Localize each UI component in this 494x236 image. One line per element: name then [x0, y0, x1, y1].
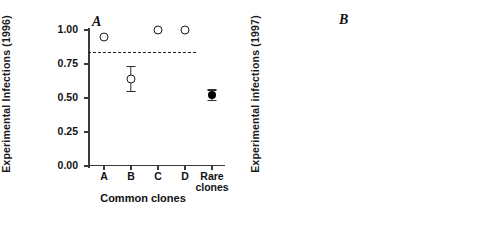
data-point-marker [154, 26, 163, 35]
y-axis-tick: 1.00 [84, 29, 88, 31]
y-axis-label-b: Experimental infections (1997) [249, 0, 267, 212]
data-point-marker [127, 74, 136, 83]
y-axis-line-a [88, 28, 90, 168]
y-axis-tick-label: 0.00 [58, 159, 78, 171]
y-axis-tick: 0.50 [84, 97, 88, 99]
chart-panel-a: Experimental Infections (1996) A Common … [0, 0, 247, 236]
x-axis-tick-label: C [154, 171, 162, 182]
plot-area-a: Common clones 0.000.250.500.751.00ABCDRa… [88, 30, 223, 166]
y-axis-tick-label: 0.50 [58, 91, 78, 103]
x-axis-title-a: Common clones [88, 192, 198, 204]
x-axis-tick-label: A [100, 171, 108, 182]
y-axis-tick-label: 0.25 [58, 125, 78, 137]
data-point-marker [208, 91, 216, 99]
y-axis-tick: 0.00 [84, 165, 88, 167]
y-axis-label-a: Experimental Infections (1996) [0, 0, 18, 212]
panel-letter-a: A [92, 14, 101, 30]
error-bar-cap [127, 91, 136, 92]
y-axis-tick: 0.75 [84, 63, 88, 65]
data-point-marker [100, 32, 109, 41]
x-axis-tick-label: Rare clones [195, 171, 228, 193]
error-bar-cap [208, 100, 217, 101]
figure-root: Experimental Infections (1996) A Common … [0, 0, 494, 236]
y-axis-tick-label: 0.75 [58, 57, 78, 69]
error-bar-cap [127, 66, 136, 67]
x-axis-tick-label: B [127, 171, 135, 182]
reference-line-dashed [88, 52, 196, 53]
y-axis-tick-label: 1.00 [58, 23, 78, 35]
x-axis-tick-label: D [181, 171, 189, 182]
panel-letter-b: B [339, 12, 348, 28]
chart-panel-b: Experimental infections (1997) B Common … [247, 0, 494, 236]
y-axis-tick: 0.25 [84, 131, 88, 133]
data-point-marker [181, 26, 190, 35]
